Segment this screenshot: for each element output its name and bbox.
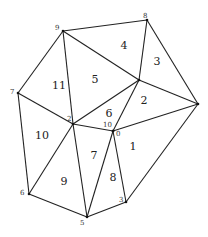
edge xyxy=(87,202,126,217)
vertex-dot xyxy=(28,193,31,196)
face-label: 5 xyxy=(92,73,99,86)
vertex-label: 5 xyxy=(80,219,84,227)
face-label: 6 xyxy=(106,107,113,120)
vertex-label: 6 xyxy=(20,189,25,197)
edge xyxy=(73,124,87,217)
vertex-dot xyxy=(72,123,75,126)
edge xyxy=(113,131,126,202)
edge xyxy=(63,31,139,80)
face-label: 2 xyxy=(141,94,148,107)
triangulation-diagram: 9872100653 1234567891011 xyxy=(0,0,208,237)
face-label: 4 xyxy=(121,39,128,52)
edge xyxy=(139,20,147,80)
face-label: 11 xyxy=(52,79,66,92)
vertex-dot xyxy=(17,92,20,95)
face-label: 8 xyxy=(110,171,117,184)
face-label: 7 xyxy=(91,149,98,162)
vertex-label: 7 xyxy=(10,88,14,96)
edge xyxy=(29,194,87,217)
edge xyxy=(18,93,73,124)
vertex-dot xyxy=(125,201,128,204)
face-label: 10 xyxy=(35,129,49,142)
vertex-dot xyxy=(112,130,115,133)
edge xyxy=(113,104,198,131)
vertex-label: 0 xyxy=(116,130,120,138)
edge xyxy=(63,20,147,31)
face-label: 1 xyxy=(130,140,137,153)
vertex-dot xyxy=(62,30,65,33)
edge xyxy=(113,80,139,131)
edge xyxy=(18,93,29,194)
vertex-label: 10 xyxy=(103,121,112,129)
vertex-label: 8 xyxy=(143,12,147,20)
face-label: 9 xyxy=(61,175,68,188)
vertex-label: 9 xyxy=(55,24,59,32)
vertex-dot xyxy=(197,103,200,106)
vertex-label: 2 xyxy=(67,115,71,123)
vertex-dot xyxy=(138,79,141,82)
vertex-dot xyxy=(86,216,89,219)
edge xyxy=(139,80,198,104)
face-label: 3 xyxy=(154,55,161,68)
edge xyxy=(63,31,73,124)
edge xyxy=(126,104,198,202)
vertex-label: 3 xyxy=(119,196,123,204)
